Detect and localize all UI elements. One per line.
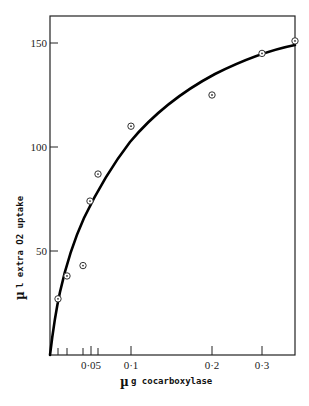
y-axis-label-text: l extra O2 uptake	[15, 195, 25, 288]
chart: 50100150 0·050·10·20·3 µ g cocarboxylase…	[0, 0, 309, 406]
y-tick-label: 50	[36, 245, 48, 257]
data-points	[55, 38, 298, 302]
x-tick-label: 0·1	[124, 359, 139, 371]
x-axis-label-text: g cocarboxylase	[131, 376, 213, 386]
x-tick-label: 0·2	[205, 359, 220, 371]
data-point-center	[97, 173, 99, 175]
x-tick-label: 0·05	[81, 359, 102, 371]
data-point-center	[130, 125, 132, 127]
y-tick-label: 100	[31, 141, 48, 153]
x-axis-ticks: 0·050·10·20·3	[58, 346, 270, 371]
x-axis-label-mu: µ	[120, 375, 129, 389]
plot-border	[50, 16, 295, 355]
data-point-center	[261, 53, 263, 55]
plot-frame	[50, 16, 295, 355]
data-point-center	[89, 200, 91, 202]
data-point-center	[57, 298, 59, 300]
y-tick-label: 150	[31, 37, 48, 49]
y-axis-label-mu: µ	[13, 291, 27, 300]
x-tick-label: 0·3	[255, 359, 270, 371]
y-axis-label: µ l extra O2 uptake	[13, 195, 27, 300]
data-point-center	[294, 40, 296, 42]
x-axis-label: µ g cocarboxylase	[120, 375, 213, 389]
data-point-center	[82, 265, 84, 267]
data-point-center	[66, 275, 68, 277]
y-axis-ticks: 50100150	[31, 37, 59, 257]
data-point-center	[211, 94, 213, 96]
